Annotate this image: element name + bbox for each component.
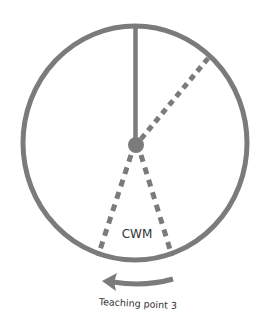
- teaching-point-diagram: CWM Teaching point 3: [0, 0, 265, 321]
- center-point: [128, 137, 144, 153]
- upper-right-dashed-line: [141, 56, 210, 139]
- caption: Teaching point 3: [98, 296, 178, 311]
- sector-label: CWM: [122, 227, 153, 241]
- curved-arrow-left-icon: [102, 273, 173, 291]
